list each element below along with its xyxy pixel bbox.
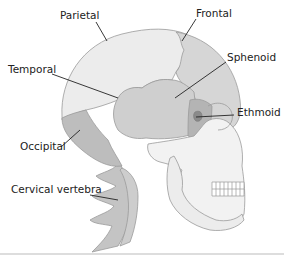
skull-diagram: Parietal Frontal Temporal Sphenoid Ethmo… — [0, 0, 284, 258]
label-ethmoid-text: Ethmoid — [237, 106, 281, 118]
label-cervical-vertebra: Cervical vertebra — [11, 183, 118, 200]
teeth — [212, 182, 244, 196]
label-parietal: Parietal — [60, 9, 107, 41]
label-frontal-text: Frontal — [196, 7, 232, 19]
cervical-vertebrae — [90, 162, 138, 252]
label-occipital-text: Occipital — [20, 140, 66, 152]
ethmoid-bone — [194, 111, 202, 121]
label-sphenoid-text: Sphenoid — [227, 51, 276, 63]
leader-parietal — [96, 22, 107, 41]
label-temporal-text: Temporal — [7, 63, 56, 75]
label-cervical-vertebra-text: Cervical vertebra — [11, 183, 102, 195]
label-parietal-text: Parietal — [60, 9, 99, 21]
